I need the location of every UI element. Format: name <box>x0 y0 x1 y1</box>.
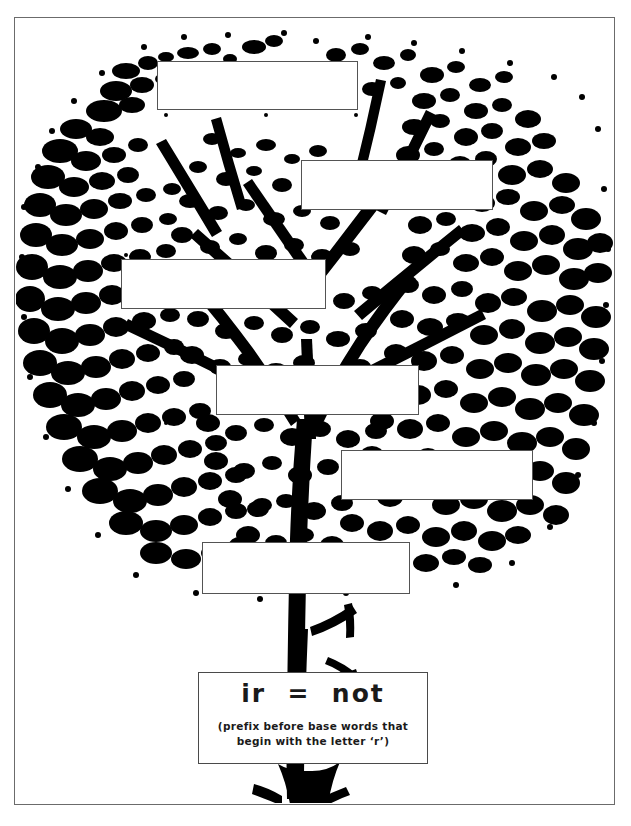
prefix-definition-subtitle-line-1: (prefix before base words that <box>208 719 418 734</box>
prefix-definition-box: ir = not (prefix before base words that … <box>198 672 428 764</box>
worksheet-page: ir = not (prefix before base words that … <box>0 0 631 826</box>
prefix-definition-subtitle-line-2: begin with the letter ‘r’) <box>208 734 418 749</box>
answer-box-6[interactable] <box>202 542 410 594</box>
answer-box-5[interactable] <box>341 450 533 500</box>
answer-box-3[interactable] <box>121 259 326 309</box>
answer-box-1[interactable] <box>157 61 358 110</box>
answer-box-2[interactable] <box>301 160 493 210</box>
prefix-definition-title: ir = not <box>241 680 385 708</box>
answer-box-4[interactable] <box>216 365 419 415</box>
prefix-definition-subtitle: (prefix before base words that begin wit… <box>208 719 418 749</box>
